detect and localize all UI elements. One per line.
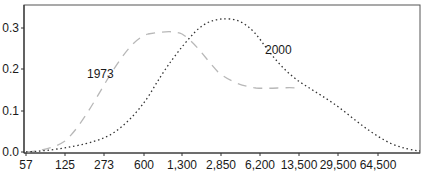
series-1973-line xyxy=(26,32,298,152)
x-tick-label: 125 xyxy=(55,158,75,172)
y-tick-label: 0.0 xyxy=(2,145,19,159)
x-tick-label: 13,500 xyxy=(281,158,318,172)
x-tick-label: 64,500 xyxy=(360,158,397,172)
x-tick-label: 600 xyxy=(134,158,154,172)
y-tick-label: 0.3 xyxy=(2,21,19,35)
x-tick-label: 6,200 xyxy=(245,158,275,172)
y-tick-label: 0.2 xyxy=(2,62,19,76)
y-tick-label: 0.1 xyxy=(2,104,19,118)
x-tick-label: 57 xyxy=(19,158,33,172)
x-ticks: 57 125 273 600 1,300 2,850 6,200 13,500 … xyxy=(19,153,396,172)
plot-frame xyxy=(24,5,420,153)
series-2000-line xyxy=(26,19,420,152)
x-tick-label: 1,300 xyxy=(167,158,197,172)
series-label-1973: 1973 xyxy=(87,67,114,81)
x-tick-label: 29,500 xyxy=(320,158,357,172)
x-tick-label: 273 xyxy=(94,158,114,172)
y-ticks: 0.0 0.1 0.2 0.3 xyxy=(2,21,24,159)
income-distribution-chart: 0.0 0.1 0.2 0.3 57 125 273 600 1,300 2,8… xyxy=(0,0,426,172)
series-label-2000: 2000 xyxy=(265,43,292,57)
x-tick-label: 2,850 xyxy=(206,158,236,172)
